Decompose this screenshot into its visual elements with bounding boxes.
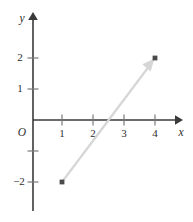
x-axis-arrow-icon bbox=[175, 115, 183, 125]
x-axis-label: x bbox=[177, 126, 184, 138]
x-tick-label-4: 4 bbox=[152, 127, 158, 139]
x-tick-labels: 1 2 3 4 bbox=[59, 127, 158, 139]
vector-arrow-shaft bbox=[62, 65, 150, 182]
graph-canvas: x y O 1 2 3 4 bbox=[0, 0, 193, 222]
coordinate-plane-figure: x y O 1 2 3 4 bbox=[0, 0, 193, 222]
y-tick-label-2: 2 bbox=[17, 51, 23, 63]
y-tick-label-1: 1 bbox=[17, 82, 23, 94]
y-axis-arrow-icon bbox=[28, 12, 38, 20]
data-point-2 bbox=[153, 56, 158, 61]
x-tick-label-3: 3 bbox=[121, 127, 127, 139]
data-point-1 bbox=[60, 180, 65, 185]
vector-arrow-head-icon bbox=[142, 59, 154, 72]
y-tick-label-neg-2: −2 bbox=[13, 175, 25, 187]
y-axis-label: y bbox=[18, 12, 25, 25]
origin-label: O bbox=[18, 126, 27, 138]
x-tick-label-1: 1 bbox=[59, 127, 65, 139]
y-tick-labels: 2 1 −2 bbox=[13, 51, 25, 187]
